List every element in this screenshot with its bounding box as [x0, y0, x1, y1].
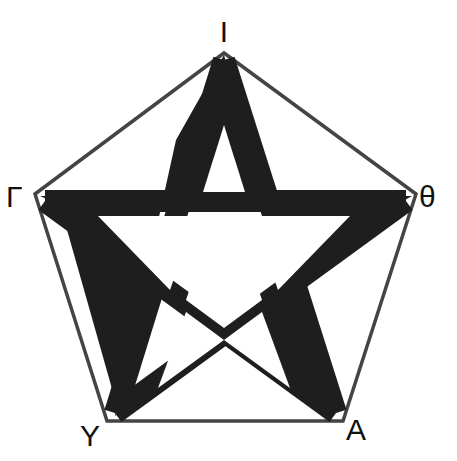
- vertex-label-right: θ: [419, 180, 436, 213]
- pentagram-diagram: Ι θ A Υ Γ: [0, 0, 457, 461]
- vertex-label-bottom-right: A: [346, 413, 366, 446]
- vertex-label-bottom-left: Υ: [80, 419, 100, 452]
- vertex-label-top: Ι: [220, 15, 228, 48]
- vertex-label-left: Γ: [6, 180, 23, 213]
